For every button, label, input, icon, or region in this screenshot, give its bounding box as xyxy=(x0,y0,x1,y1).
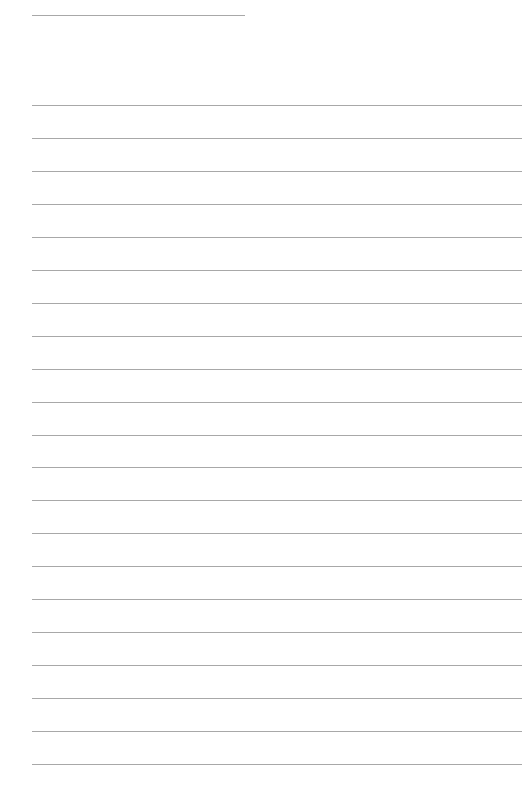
ruled-line xyxy=(32,698,522,699)
writing-line-text xyxy=(36,345,516,369)
writing-line-text xyxy=(36,279,516,303)
ruled-line xyxy=(32,402,522,403)
writing-line-text xyxy=(36,378,516,402)
ruled-line xyxy=(32,467,522,468)
ruled-line xyxy=(32,731,522,732)
writing-line-text xyxy=(36,674,516,698)
ruled-line xyxy=(32,237,522,238)
ruled-line xyxy=(32,500,522,501)
ruled-line xyxy=(32,138,522,139)
ruled-line xyxy=(32,270,522,271)
lined-page xyxy=(0,0,530,790)
writing-line-text xyxy=(36,740,516,764)
writing-line-text xyxy=(36,575,516,599)
header-rule xyxy=(32,15,245,16)
ruled-line xyxy=(32,665,522,666)
writing-line-text xyxy=(36,509,516,533)
ruled-line xyxy=(32,369,522,370)
writing-line-text xyxy=(36,81,516,105)
writing-line-text xyxy=(36,312,516,336)
writing-line-text xyxy=(36,180,516,204)
writing-line-text xyxy=(36,213,516,237)
ruled-line xyxy=(32,303,522,304)
writing-line-text xyxy=(36,542,516,566)
ruled-line xyxy=(32,336,522,337)
ruled-line xyxy=(32,171,522,172)
ruled-line xyxy=(32,764,522,765)
ruled-line xyxy=(32,632,522,633)
ruled-line xyxy=(32,435,522,436)
ruled-line xyxy=(32,566,522,567)
writing-line-text xyxy=(36,114,516,138)
ruled-line xyxy=(32,599,522,600)
ruled-line xyxy=(32,105,522,106)
writing-line-text xyxy=(36,608,516,632)
writing-line-text xyxy=(36,246,516,270)
ruled-line xyxy=(32,204,522,205)
writing-line-text xyxy=(36,476,516,500)
writing-line-text xyxy=(36,707,516,731)
writing-line-text xyxy=(36,641,516,665)
writing-line-text xyxy=(36,147,516,171)
writing-line-text xyxy=(36,443,516,467)
ruled-line xyxy=(32,533,522,534)
writing-line-text xyxy=(36,411,516,435)
